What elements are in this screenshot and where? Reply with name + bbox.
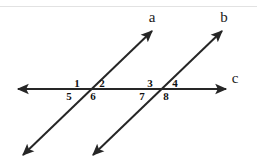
- angle-label-3: 3: [147, 77, 153, 89]
- angle-label-4: 4: [172, 77, 178, 89]
- line-c-label: c: [232, 70, 239, 86]
- angle-label-8: 8: [163, 90, 169, 102]
- line-a-label: a: [149, 9, 156, 25]
- geometry-canvas: a b c 1 2 5 6 3 4 7 8: [0, 0, 257, 165]
- angle-label-1: 1: [74, 77, 80, 89]
- line-a-segment: [23, 31, 152, 155]
- angle-label-6: 6: [90, 90, 96, 102]
- geometry-diagram: a b c 1 2 5 6 3 4 7 8: [0, 0, 257, 165]
- line-b-label: b: [220, 9, 228, 25]
- line-b-segment: [93, 31, 222, 155]
- angle-label-5: 5: [66, 90, 72, 102]
- angle-label-2: 2: [99, 77, 105, 89]
- angle-label-7: 7: [139, 90, 145, 102]
